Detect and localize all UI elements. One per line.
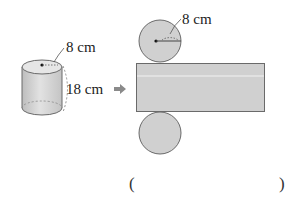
net-radius-label: 8 cm — [182, 11, 212, 27]
cylinder — [22, 48, 68, 115]
cylinder-net-diagram: 8 cm 18 cm 8 cm ( ) — [0, 0, 287, 199]
answer-close-paren: ) — [279, 174, 285, 193]
arrow-right-icon — [114, 84, 126, 94]
cylinder-top-face — [22, 60, 62, 74]
radius-leader-line — [54, 48, 64, 62]
answer-open-paren: ( — [129, 174, 135, 193]
cylinder-height-label: 18 cm — [66, 81, 103, 97]
net-rectangle — [137, 64, 265, 112]
net-bottom-circle — [139, 112, 181, 154]
cylinder-radius-label: 8 cm — [66, 39, 96, 55]
answer-blank[interactable] — [140, 174, 274, 194]
net-top-circle — [139, 19, 181, 62]
